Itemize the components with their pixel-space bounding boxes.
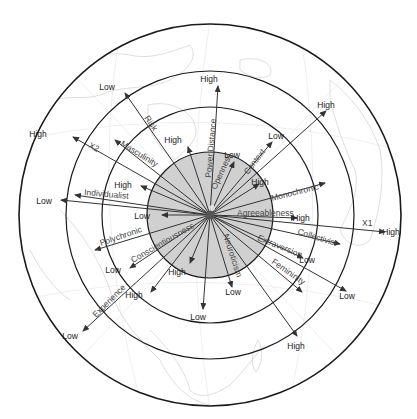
axis-end-conscientiousness: Low bbox=[105, 265, 121, 275]
axis-end-lower-right-low: Low bbox=[339, 291, 355, 301]
axis-end-lower-left-high: High bbox=[125, 290, 143, 300]
axis-end-x2: High bbox=[29, 129, 47, 139]
axis-end-bottom-low: Low bbox=[190, 312, 206, 322]
axis-end-neuroticism: Low bbox=[225, 287, 241, 297]
axis-end-context: Low bbox=[268, 131, 284, 141]
origin-point bbox=[206, 211, 214, 219]
axis-label-agreeableness: Agreeableness bbox=[237, 208, 294, 218]
axis-end-inner-left-high: High bbox=[114, 180, 132, 190]
axis-end-upper-high: High bbox=[164, 135, 182, 145]
axis-label-masculinity: Masculinity bbox=[119, 138, 161, 169]
axis-end-x1: High bbox=[382, 227, 400, 237]
diagram-canvas: X1X2RiskMasculinityPower DistanceOpennes… bbox=[0, 0, 417, 419]
axis-end-lower-high: High bbox=[168, 267, 186, 277]
axis-end-left-low: Low bbox=[36, 196, 52, 206]
axis-end-x-upper-right: High bbox=[317, 100, 335, 110]
axis-end-inner-left-low: Low bbox=[134, 211, 150, 221]
axis-end-agreeableness: High bbox=[292, 213, 310, 223]
axis-label-polychronic: Polychronic bbox=[98, 224, 144, 248]
axis-end-lower-right-high: High bbox=[287, 341, 305, 351]
axis-end-power-distance: High bbox=[200, 74, 218, 84]
axis-label-x1: X1 bbox=[362, 218, 373, 228]
axis-end-openness: Low bbox=[224, 150, 240, 160]
axis-end-risk: Low bbox=[99, 82, 115, 92]
origin-highlight bbox=[209, 205, 215, 211]
cultural-dimensions-diagram: X1X2RiskMasculinityPower DistanceOpennes… bbox=[0, 0, 417, 419]
axis-end-experience: Low bbox=[62, 331, 78, 341]
axis-end-extraversion: Low bbox=[299, 255, 315, 265]
axis-end-neuroticism-high: High bbox=[251, 177, 269, 187]
